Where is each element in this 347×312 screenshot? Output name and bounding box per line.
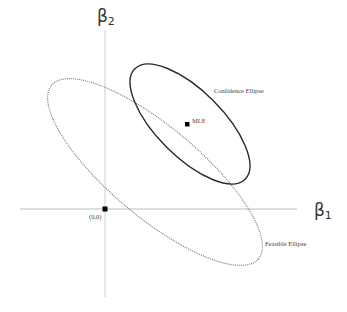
feasible-ellipse-label: Feasible Ellipse bbox=[265, 241, 306, 248]
diagram-canvas: β2 β1 (0,0) MLE Confidence Ellipse Feasi… bbox=[0, 0, 347, 312]
x-axis-label: β1 bbox=[314, 202, 332, 221]
mle-marker bbox=[185, 122, 190, 127]
origin-marker bbox=[103, 207, 108, 212]
confidence-ellipse bbox=[112, 46, 269, 203]
y-axis-label-subscript: 2 bbox=[108, 15, 115, 28]
diagram-svg bbox=[0, 0, 347, 312]
x-axis-label-subscript: 1 bbox=[325, 209, 332, 222]
origin-label: (0,0) bbox=[89, 214, 101, 221]
x-axis-label-base: β bbox=[314, 200, 325, 220]
confidence-ellipse-label: Confidence Ellipse bbox=[214, 88, 264, 95]
y-axis-label-base: β bbox=[97, 6, 108, 26]
y-axis-label: β2 bbox=[97, 8, 115, 27]
mle-label: MLE bbox=[192, 118, 206, 125]
